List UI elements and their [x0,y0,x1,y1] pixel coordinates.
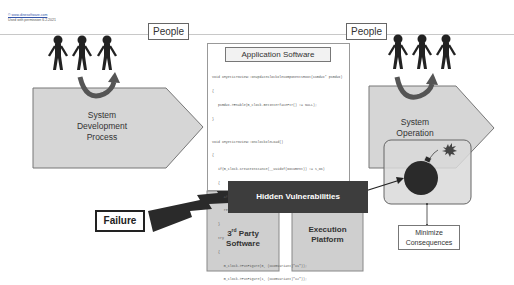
people-label-left: People [148,23,189,40]
system-development-process-label: System Development Process [52,110,152,143]
people-label-right: People [346,23,387,40]
execution-platform-label: Execution Platform [292,225,363,245]
failure-label: Failure [95,210,145,232]
people-icon-right [389,35,455,70]
source-code: void CMyeticTNView::OnUpdateClockoleComp… [212,66,348,285]
application-software-title: Application Software [225,47,331,62]
third-party-software-label: 3rd Party Software [207,225,279,249]
hidden-vulnerabilities-bar: Hidden Vulnerabilities [228,181,368,213]
system-operation-label: System Operation [380,117,450,139]
minimize-consequences-label: Minimize Consequences [398,225,460,250]
people-icon-left [49,36,116,71]
